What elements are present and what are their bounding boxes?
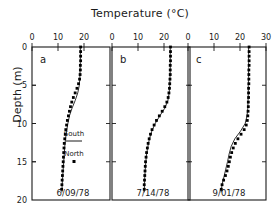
data-point (169, 59, 172, 62)
data-point (146, 147, 149, 150)
data-point (158, 114, 161, 117)
data-point (168, 87, 171, 90)
data-point (149, 133, 152, 136)
x-tick-label: 0 (29, 33, 34, 42)
panel-frame-a (32, 47, 110, 200)
data-point (168, 82, 171, 85)
data-point (247, 87, 250, 90)
data-point (143, 183, 146, 186)
data-point (63, 142, 66, 145)
y-tick-label: 10 (17, 120, 27, 129)
data-point (169, 64, 172, 67)
figure: Temperature (°C) Depth (m) 0510152001020… (0, 0, 280, 219)
data-point (68, 110, 71, 113)
legend-swatch-north-dot (73, 160, 76, 163)
data-point (147, 142, 150, 145)
data-point (67, 114, 70, 117)
data-point (247, 101, 250, 104)
x-tick-label: 30 (261, 33, 271, 42)
data-point (155, 119, 158, 122)
data-point (165, 101, 168, 104)
data-point (169, 46, 172, 49)
data-point (246, 119, 249, 122)
data-point (248, 59, 251, 62)
data-point (169, 78, 172, 81)
data-point (232, 147, 235, 150)
x-tick-label: 10 (53, 33, 63, 42)
data-point (144, 160, 147, 163)
data-point (247, 82, 250, 85)
data-point (61, 174, 64, 177)
data-point (169, 50, 172, 53)
y-tick-label: 5 (22, 81, 27, 90)
panel-frame-b (112, 47, 190, 200)
data-point (145, 156, 148, 159)
data-point (79, 50, 82, 53)
panel-label-c: c (196, 54, 202, 65)
series-line-south-a (62, 47, 80, 192)
data-point (148, 137, 151, 140)
y-tick-label: 15 (17, 158, 27, 167)
data-point (240, 133, 243, 136)
series-dots-north-c (220, 46, 251, 191)
data-point (62, 160, 65, 163)
data-point (248, 55, 251, 58)
data-point (76, 87, 79, 90)
data-point (143, 179, 146, 182)
data-point (246, 114, 249, 117)
data-point (70, 101, 73, 104)
data-point (224, 174, 227, 177)
data-point (79, 46, 82, 49)
data-point (247, 110, 250, 113)
data-point (248, 46, 251, 49)
data-point (61, 183, 64, 186)
data-point (60, 188, 63, 191)
plot-canvas: 0510152001020a6/09/7801020b7/14/78010203… (0, 0, 280, 219)
data-point (79, 64, 82, 67)
data-point (66, 119, 69, 122)
panel-date-b: 7/14/78 (137, 188, 170, 198)
data-point (234, 142, 237, 145)
data-point (247, 78, 250, 81)
data-point (237, 137, 240, 140)
data-point (229, 156, 232, 159)
data-point (79, 69, 82, 72)
series-dots-north-b (143, 46, 172, 191)
panel-label-a: a (40, 54, 46, 65)
data-point (227, 165, 230, 168)
data-point (79, 73, 82, 76)
data-point (169, 73, 172, 76)
x-tick-label: 10 (133, 33, 143, 42)
data-point (63, 147, 66, 150)
data-point (77, 82, 80, 85)
data-point (247, 96, 250, 99)
legend-label-north: North (64, 150, 84, 158)
x-tick-label: 0 (109, 33, 114, 42)
panel-date-c: 9/01/78 (213, 188, 246, 198)
data-point (143, 174, 146, 177)
data-point (245, 124, 248, 127)
data-point (247, 69, 250, 72)
data-point (247, 92, 250, 95)
data-point (72, 96, 75, 99)
x-tick-label: 20 (235, 33, 245, 42)
data-point (151, 128, 154, 131)
panel-label-b: b (120, 54, 126, 65)
data-point (222, 179, 225, 182)
data-point (169, 69, 172, 72)
x-tick-label: 20 (79, 33, 89, 42)
data-point (248, 64, 251, 67)
data-point (65, 124, 68, 127)
panel-frame-c (188, 47, 266, 200)
data-point (226, 170, 229, 173)
data-point (230, 151, 233, 154)
data-point (62, 165, 65, 168)
data-point (247, 105, 250, 108)
data-point (167, 96, 170, 99)
data-point (161, 110, 164, 113)
data-point (153, 124, 156, 127)
data-point (145, 151, 148, 154)
data-point (79, 55, 82, 58)
x-tick-label: 0 (185, 33, 190, 42)
data-point (61, 170, 64, 173)
